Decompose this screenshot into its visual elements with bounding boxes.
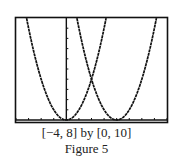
figure-label: Figure 5 bbox=[0, 142, 173, 156]
window-caption: [−4, 8] by [0, 10] bbox=[0, 126, 173, 140]
calculator-graph bbox=[0, 0, 173, 125]
